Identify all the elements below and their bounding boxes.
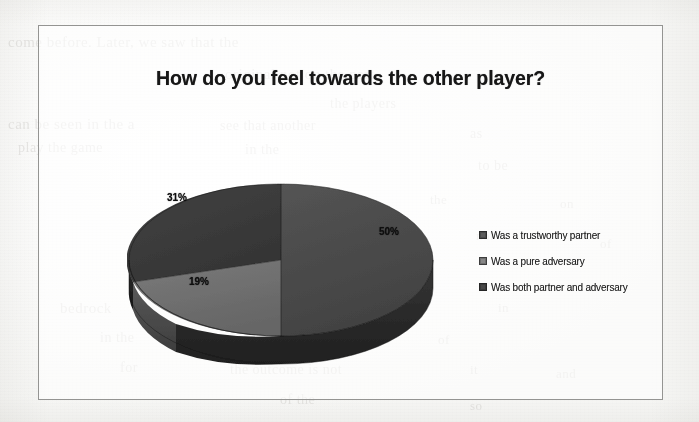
legend-swatch-trustworthy (479, 231, 487, 239)
legend-item-label: Was both partner and adversary (491, 282, 627, 293)
chart-legend: Was a trustworthy partner Was a pure adv… (479, 222, 632, 300)
legend-item[interactable]: Was both partner and adversary (479, 274, 632, 300)
chart-title: How do you feel towards the other player… (53, 66, 648, 90)
legend-item[interactable]: Was a trustworthy partner (479, 222, 632, 248)
pie-chart-svg (127, 178, 437, 373)
pie-label-50: 50% (379, 226, 399, 237)
pie-chart: 50% 31% 19% (127, 178, 437, 373)
chart-frame: How do you feel towards the other player… (38, 25, 663, 400)
legend-item-label: Was a trustworthy partner (491, 230, 600, 241)
legend-item[interactable]: Was a pure adversary (479, 248, 632, 274)
pie-label-31: 31% (167, 192, 187, 203)
legend-swatch-both (479, 283, 487, 291)
scanned-page: come before. Later, we saw that theorigi… (0, 0, 699, 422)
legend-swatch-adversary (479, 257, 487, 265)
pie-label-19: 19% (189, 276, 209, 287)
legend-item-label: Was a pure adversary (491, 256, 584, 267)
